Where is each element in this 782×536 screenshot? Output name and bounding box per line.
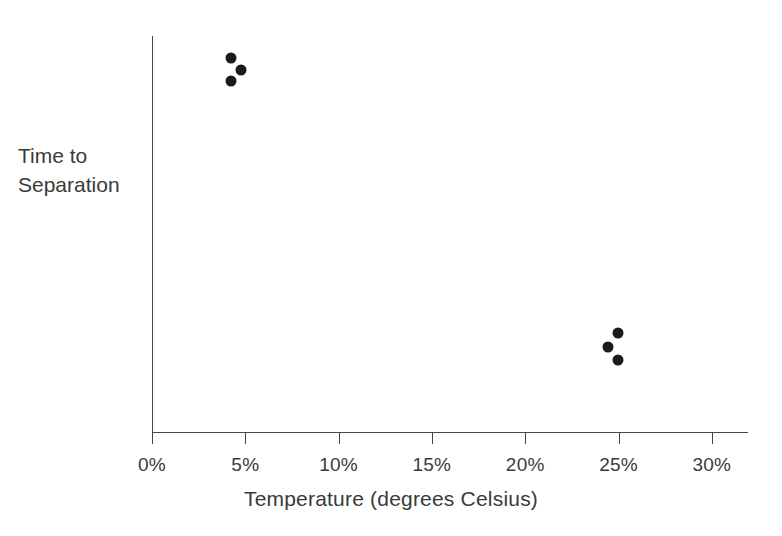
data-points-group <box>226 53 624 366</box>
scatter-plot-figure: 0%5%10%15%20%25%30% Time to Separation T… <box>0 0 782 536</box>
data-point <box>226 76 237 87</box>
data-point <box>613 355 624 366</box>
x-axis-title: Temperature (degrees Celsius) <box>0 487 782 511</box>
x-axis-tick-label: 20% <box>506 454 545 476</box>
x-axis-tick-label: 30% <box>692 454 731 476</box>
y-axis-title-line-2: Separation <box>18 170 144 199</box>
data-point <box>603 342 614 353</box>
axes-group <box>153 36 749 433</box>
x-axis-tick-label: 10% <box>319 454 358 476</box>
x-axis-tick-label: 5% <box>231 454 259 476</box>
x-axis-tick-label: 0% <box>138 454 166 476</box>
axis-lines <box>153 36 749 433</box>
y-axis-title-line-1: Time to <box>18 141 144 170</box>
x-axis-tick-label: 25% <box>599 454 638 476</box>
plot-canvas <box>0 0 782 536</box>
data-point <box>613 328 624 339</box>
data-point <box>226 53 237 64</box>
x-axis-ticks <box>153 433 713 444</box>
data-point <box>236 65 247 76</box>
y-axis-title: Time to Separation <box>18 141 144 199</box>
x-axis-tick-label: 15% <box>413 454 452 476</box>
